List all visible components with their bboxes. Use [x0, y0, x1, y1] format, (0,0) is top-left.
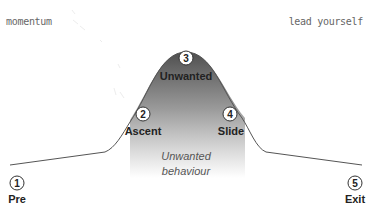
step-label-exit: Exit: [345, 193, 365, 205]
step-number-4: 4: [227, 109, 233, 120]
step-marker-2: 2: [136, 107, 150, 121]
step-label-unwanted: Unwanted: [160, 70, 213, 82]
background-scribble: [72, 10, 124, 98]
step-marker-3: 3: [179, 51, 193, 65]
step-marker-1: 1: [10, 176, 24, 190]
caption-line-1: Unwanted: [161, 149, 211, 164]
step-number-3: 3: [183, 53, 189, 64]
step-label-pre: Pre: [8, 193, 26, 205]
behaviour-curve-diagram: 1 2 3 4 5: [0, 0, 373, 215]
step-number-2: 2: [140, 109, 146, 120]
step-marker-4: 4: [223, 107, 237, 121]
step-marker-5: 5: [348, 176, 362, 190]
unwanted-behaviour-caption: Unwanted behaviour: [161, 149, 211, 179]
caption-line-2: behaviour: [161, 164, 211, 179]
step-label-ascent: Ascent: [125, 125, 162, 137]
step-number-1: 1: [14, 178, 20, 189]
step-number-5: 5: [352, 178, 358, 189]
step-label-slide: Slide: [218, 125, 244, 137]
